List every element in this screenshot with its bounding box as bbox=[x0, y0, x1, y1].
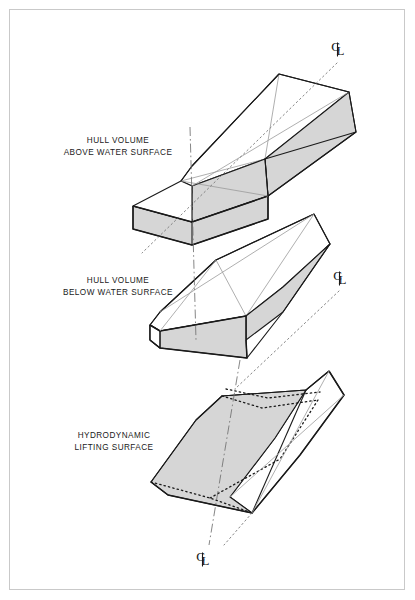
label-hydrodynamic-lifting-surface: HYDRODYNAMIC LIFTING SURFACE bbox=[52, 430, 176, 453]
hull-above-water-shape bbox=[133, 74, 356, 245]
label-hull-below-water-line1: HULL VOLUME bbox=[54, 275, 182, 287]
diagram-page: .edge { fill: none; stroke: #1a1a1a; str… bbox=[0, 0, 415, 600]
label-lifting-surface-line2: LIFTING SURFACE bbox=[52, 442, 176, 454]
label-hull-below-water: HULL VOLUME BELOW WATER SURFACE bbox=[54, 275, 182, 298]
centerline-bottom-diagonal bbox=[224, 513, 252, 545]
label-lifting-surface-line1: HYDRODYNAMIC bbox=[52, 430, 176, 442]
diagram-artwork: .edge { fill: none; stroke: #1a1a1a; str… bbox=[0, 0, 415, 600]
centerline-symbol-icon-top: C L bbox=[331, 38, 353, 64]
label-hull-above-water-line1: HULL VOLUME bbox=[60, 135, 176, 147]
centerline-symbol-icon-bottom: C L bbox=[196, 548, 218, 574]
label-hull-below-water-line2: BELOW WATER SURFACE bbox=[54, 287, 182, 299]
hydrodynamic-lifting-surface-shape bbox=[151, 371, 344, 513]
centerline-symbol-icon-middle: C L bbox=[333, 267, 355, 293]
label-hull-above-water: HULL VOLUME ABOVE WATER SURFACE bbox=[60, 135, 176, 158]
label-hull-above-water-line2: ABOVE WATER SURFACE bbox=[60, 147, 176, 159]
